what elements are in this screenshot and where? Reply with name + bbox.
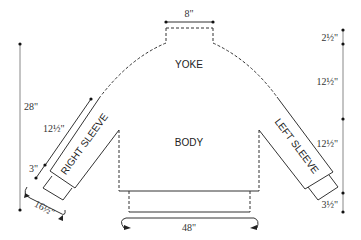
body-length-label: 12½" [316, 138, 338, 149]
neck-depth-label: 2½" [321, 32, 338, 43]
chest-circumference-label: 48" [182, 222, 196, 233]
cuff-arrow-end-icon [58, 215, 63, 221]
right-dot-2 [341, 42, 344, 45]
total-length-label: 28" [24, 101, 38, 112]
cuff-circumference-label: 16½" [33, 198, 57, 218]
neck-dot-right [211, 20, 214, 23]
arrow-right-icon [250, 225, 257, 230]
sleeve-dot-bottom [34, 176, 37, 179]
left-sleeve-end [305, 172, 333, 189]
right-dot-3 [341, 117, 344, 120]
sweater-schematic: YOKE BODY RIGHT SLEEVE LEFT SLEEVE 8" 28… [0, 0, 361, 240]
neck-sides [166, 28, 213, 43]
cuff-length-label: 3" [29, 163, 38, 174]
yoke-label: YOKE [175, 59, 203, 70]
yoke-right-edge [213, 43, 277, 97]
body-label: BODY [175, 137, 204, 148]
total-length-dot-top [18, 42, 21, 45]
right-dot-1 [341, 28, 344, 31]
right-dot-4 [341, 191, 344, 194]
sleeve-dot-top [89, 97, 92, 100]
sleeve-length-label: 12½" [43, 123, 65, 134]
yoke-depth-label: 12½" [316, 76, 338, 87]
neck-width-label: 8" [184, 8, 193, 19]
total-length-dot-bottom [18, 208, 21, 211]
neck-dot-left [164, 20, 167, 23]
right-dot-5 [341, 210, 344, 213]
yoke-left-edge [100, 43, 166, 97]
ribbing-sides [129, 191, 250, 212]
sleeve-dot-mid [43, 163, 46, 166]
arrow-left-icon [124, 225, 131, 230]
right-cuff [43, 176, 72, 200]
left-cuff [308, 175, 338, 200]
hem-ribbing-label: 3½" [321, 199, 338, 210]
